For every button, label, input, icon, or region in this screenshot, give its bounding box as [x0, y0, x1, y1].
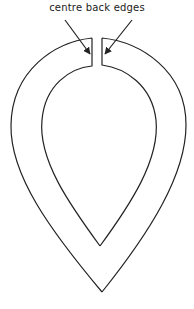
pattern-diagram [0, 0, 194, 309]
arrow-left-icon [65, 20, 90, 54]
collar-right-piece [100, 38, 186, 292]
arrow-right-icon [105, 20, 132, 54]
collar-left-piece [11, 38, 102, 292]
